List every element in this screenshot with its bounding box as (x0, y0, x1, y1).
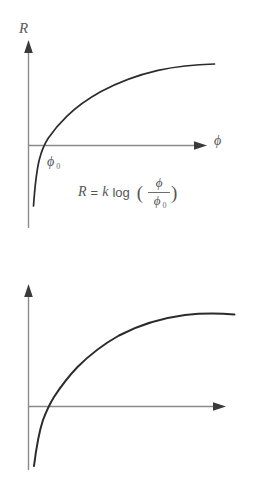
y-axis-logarithmic (24, 40, 33, 228)
x-axis-logarithmic (29, 141, 208, 150)
equation-denominator: ϕ0 (151, 194, 168, 209)
threshold-label-logarithmic: ϕ0 (47, 155, 58, 169)
plot-area-power-law (0, 242, 274, 484)
denominator-phi-glyph: ϕ (154, 193, 161, 208)
equation-logarithmic: R = k log ( ϕ ϕ0 ) (78, 176, 177, 209)
data-curve-power-law (34, 314, 235, 466)
equation-lhs: R (78, 184, 87, 200)
denominator-subscript: 0 (162, 201, 166, 210)
equation-paren-close: ) (171, 183, 177, 202)
equation-coefficient: k (102, 184, 108, 200)
equation-fraction: ϕ ϕ0 (148, 176, 170, 209)
x-axis-label-logarithmic: ϕ (214, 134, 221, 148)
x-axis-power-law (29, 402, 227, 411)
figure-power-law: R ϕ ϕ0 ψ = k ϕ n (0, 242, 274, 484)
equation-equals: = (91, 185, 99, 200)
equation-numerator: ϕ (153, 176, 166, 191)
figure-logarithmic: R ϕ ϕ0 R = k log ( ϕ ϕ0 ) (0, 0, 274, 242)
threshold-phi-glyph: ϕ (47, 154, 54, 169)
y-axis-label-logarithmic: R (19, 21, 28, 36)
y-axis-power-law (24, 284, 33, 470)
equation-function-log: log (112, 185, 129, 200)
threshold-subscript: 0 (56, 162, 60, 171)
equation-paren-open: ( (137, 183, 143, 202)
